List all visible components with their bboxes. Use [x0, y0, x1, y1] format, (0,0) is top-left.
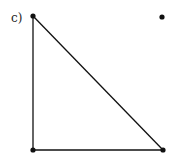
point-top-left — [30, 13, 35, 18]
point-bottom-right — [160, 147, 165, 152]
triangle-diagram — [0, 0, 175, 162]
point-bottom-left — [30, 147, 35, 152]
edge-hypotenuse — [33, 16, 163, 150]
point-top-right — [159, 14, 164, 19]
